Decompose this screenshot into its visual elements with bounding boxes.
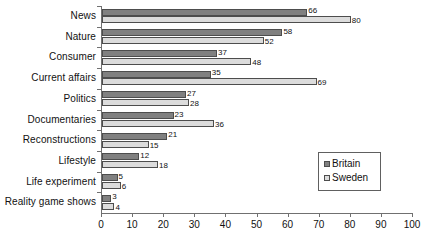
- bar-sweden: [102, 37, 264, 44]
- chart-category-row: Nature5852: [0, 27, 430, 48]
- bar-britain: [102, 71, 211, 78]
- bar-value-label: 4: [115, 204, 119, 212]
- bar-value-label: 66: [308, 7, 317, 15]
- bar-value-label: 23: [175, 111, 184, 119]
- y-axis-tick: [97, 172, 101, 173]
- x-axis-tick: [225, 213, 226, 217]
- y-axis-tick: [97, 130, 101, 131]
- bar-sweden: [102, 120, 214, 127]
- category-label: Documentaries: [0, 114, 96, 126]
- bar-value-label: 52: [265, 38, 274, 46]
- bar-sweden: [102, 161, 158, 168]
- bar-value-label: 37: [218, 49, 227, 57]
- bar-britain: [102, 91, 186, 98]
- britain-swatch-icon: [324, 161, 330, 167]
- bar-britain: [102, 9, 307, 16]
- bar-britain: [102, 50, 217, 57]
- bar-sweden: [102, 141, 149, 148]
- chart-legend: Britain Sweden: [318, 152, 381, 191]
- horizontal-bar-chart: News6680Nature5852Consumer3748Current af…: [0, 0, 430, 249]
- bar-value-label: 5: [119, 173, 123, 181]
- y-axis-tick: [97, 27, 101, 28]
- category-label: Lifestyle: [0, 155, 96, 167]
- chart-category-row: News6680: [0, 6, 430, 27]
- y-axis-tick: [97, 151, 101, 152]
- x-axis-tick: [288, 213, 289, 217]
- y-axis-tick: [97, 68, 101, 69]
- chart-category-row: Consumer3748: [0, 47, 430, 68]
- bar-value-label: 58: [283, 28, 292, 36]
- bar-value-label: 12: [140, 152, 149, 160]
- x-axis-tick-label: 100: [392, 219, 430, 231]
- bar-britain: [102, 195, 111, 202]
- x-axis-tick: [194, 213, 195, 217]
- bar-britain: [102, 153, 139, 160]
- bar-value-label: 18: [159, 162, 168, 170]
- category-label: Current affairs: [0, 72, 96, 84]
- category-label: Reconstructions: [0, 134, 96, 146]
- x-axis-tick: [132, 213, 133, 217]
- category-label: Consumer: [0, 51, 96, 63]
- bar-sweden: [102, 58, 251, 65]
- y-axis-tick: [97, 192, 101, 193]
- bar-sweden: [102, 203, 114, 210]
- x-axis-tick: [350, 213, 351, 217]
- bar-sweden: [102, 182, 121, 189]
- chart-category-row: Politics2728: [0, 89, 430, 110]
- chart-category-row: Reconstructions2115: [0, 130, 430, 151]
- category-label: Life experiment: [0, 176, 96, 188]
- bar-value-label: 80: [352, 17, 361, 25]
- bar-value-label: 35: [212, 69, 221, 77]
- x-axis-tick: [257, 213, 258, 217]
- x-axis-tick: [163, 213, 164, 217]
- category-label: News: [0, 10, 96, 22]
- chart-category-row: Documentaries2336: [0, 110, 430, 131]
- x-axis-tick: [381, 213, 382, 217]
- chart-category-row: Reality game shows34: [0, 192, 430, 213]
- bar-britain: [102, 174, 118, 181]
- bar-value-label: 21: [168, 131, 177, 139]
- category-label: Reality game shows: [0, 196, 96, 208]
- y-axis-tick: [97, 6, 101, 7]
- bar-britain: [102, 133, 167, 140]
- bar-sweden: [102, 99, 189, 106]
- legend-item-sweden: Sweden: [324, 171, 380, 185]
- legend-item-britain: Britain: [324, 157, 380, 171]
- y-axis-tick: [97, 89, 101, 90]
- bar-value-label: 28: [190, 100, 199, 108]
- page-bottom-edge: [0, 243, 430, 249]
- bar-value-label: 36: [215, 121, 224, 129]
- sweden-swatch-icon: [324, 175, 330, 181]
- chart-category-row: Current affairs3569: [0, 68, 430, 89]
- legend-label-britain: Britain: [332, 158, 360, 170]
- x-axis-tick: [412, 213, 413, 217]
- y-axis-tick: [97, 110, 101, 111]
- x-axis-tick: [101, 213, 102, 217]
- bar-value-label: 69: [318, 79, 327, 87]
- x-axis-tick: [319, 213, 320, 217]
- bar-sweden: [102, 16, 351, 23]
- y-axis-tick: [97, 47, 101, 48]
- bar-britain: [102, 29, 282, 36]
- bar-value-label: 48: [252, 59, 261, 67]
- category-label: Nature: [0, 31, 96, 43]
- bar-value-label: 3: [112, 193, 116, 201]
- bar-value-label: 27: [187, 90, 196, 98]
- bar-value-label: 6: [122, 183, 126, 191]
- bar-value-label: 15: [150, 142, 159, 150]
- category-label: Politics: [0, 93, 96, 105]
- bar-britain: [102, 112, 174, 119]
- bar-sweden: [102, 78, 317, 85]
- legend-label-sweden: Sweden: [332, 172, 368, 184]
